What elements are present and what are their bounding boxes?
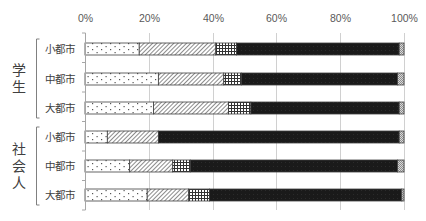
- category-label: 中都市: [45, 160, 75, 172]
- x-axis-ticks: 0%20%40%60%80%100%: [78, 12, 418, 24]
- x-tick-label: 0%: [78, 12, 93, 24]
- bar-segment-series-3: [216, 43, 237, 55]
- y-axis: [82, 33, 86, 210]
- bar-segment-series-5: [398, 160, 404, 172]
- bar-row: [85, 189, 404, 201]
- group-label-char: 会: [12, 158, 26, 174]
- bar-segment-series-4: [158, 131, 399, 143]
- x-tick-label: 40%: [203, 12, 224, 24]
- bar-segment-series-3: [224, 73, 242, 85]
- bar-segment-series-3: [173, 160, 191, 172]
- category-label: 中都市: [45, 73, 75, 85]
- group-label-char: 社: [12, 141, 26, 157]
- group-label-char: 人: [12, 175, 26, 191]
- bar-segment-series-1: [85, 73, 158, 85]
- category-label: 大都市: [45, 102, 75, 114]
- x-tick-label: 80%: [330, 12, 351, 24]
- bar-row: [85, 160, 404, 172]
- bar-segment-series-2: [154, 102, 229, 114]
- bars: [85, 43, 404, 201]
- bar-segment-series-5: [399, 43, 404, 55]
- bar-segment-series-4: [251, 102, 399, 114]
- bar-segment-series-4: [241, 73, 397, 85]
- bar-segment-series-1: [85, 43, 139, 55]
- bar-segment-series-4: [190, 160, 397, 172]
- bar-segment-series-3: [229, 102, 251, 114]
- bar-row: [85, 102, 404, 114]
- bar-segment-series-4: [237, 43, 400, 55]
- bar-segment-series-5: [398, 73, 404, 85]
- category-label: 大都市: [45, 189, 75, 201]
- category-label: 小都市: [45, 43, 75, 55]
- bar-row: [85, 73, 404, 85]
- bar-segment-series-2: [147, 189, 188, 201]
- bar-segment-series-3: [189, 189, 210, 201]
- stacked-bar-chart: 0%20%40%60%80%100% 小都市中都市大都市小都市中都市大都市 学生…: [0, 0, 426, 221]
- x-tick-label: 60%: [266, 12, 287, 24]
- group-labels: 学生社会人: [12, 39, 40, 205]
- category-label: 小都市: [45, 131, 75, 143]
- x-tick-label: 100%: [391, 12, 418, 24]
- group-label: 社会人: [12, 141, 26, 191]
- group-bracket: [37, 127, 40, 205]
- bar-segment-series-1: [85, 189, 147, 201]
- group-label-char: 生: [12, 79, 26, 95]
- bar-segment-series-2: [107, 131, 158, 143]
- group-label-char: 学: [12, 62, 26, 78]
- bar-segment-series-5: [399, 131, 404, 143]
- category-labels: 小都市中都市大都市小都市中都市大都市: [45, 43, 75, 201]
- bar-segment-series-2: [158, 73, 223, 85]
- bar-segment-series-2: [139, 43, 216, 55]
- bar-segment-series-1: [85, 160, 130, 172]
- bar-row: [85, 131, 404, 143]
- x-tick-label: 20%: [139, 12, 160, 24]
- group-label: 学生: [12, 62, 26, 95]
- bar-segment-series-5: [399, 102, 404, 114]
- bar-segment-series-1: [85, 102, 154, 114]
- group-bracket: [37, 39, 40, 118]
- gridlines: [150, 33, 405, 210]
- bar-segment-series-4: [209, 189, 401, 201]
- bar-segment-series-2: [130, 160, 173, 172]
- bar-row: [85, 43, 404, 55]
- bar-segment-series-5: [402, 189, 404, 201]
- bar-segment-series-1: [85, 131, 107, 143]
